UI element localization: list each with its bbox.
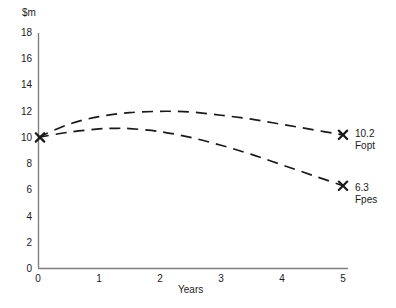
annotation-name-fopt: Fopt (355, 140, 375, 152)
marker-endpoint-fpes (339, 182, 347, 190)
x-axis-title: Years (178, 284, 203, 295)
x-tick-label-5: 5 (333, 273, 353, 284)
annotation-value-fopt: 10.2 (355, 128, 374, 140)
y-tick-label-4: 4 (10, 211, 32, 222)
y-tick-label-16: 16 (10, 53, 32, 64)
annotation-name-fpes: Fpes (355, 194, 377, 206)
y-tick-label-8: 8 (10, 158, 32, 169)
marker-origin-x (36, 133, 44, 141)
y-tick-label-18: 18 (10, 27, 32, 38)
x-tick-label-2: 2 (150, 273, 170, 284)
y-tick-label-10: 10 (10, 132, 32, 143)
y-tick-label-6: 6 (10, 184, 32, 195)
y-tick-label-14: 14 (10, 79, 32, 90)
series-line-fpes (38, 128, 343, 186)
series-line-fopt (38, 111, 343, 137)
x-tick-label-1: 1 (89, 273, 109, 284)
x-tick-label-3: 3 (211, 273, 231, 284)
y-tick-label-2: 2 (10, 237, 32, 248)
chart-container: $m 18 16 14 12 10 8 6 4 2 0 0 1 2 3 4 5 … (0, 0, 396, 308)
y-tick-label-12: 12 (10, 106, 32, 117)
annotation-value-fpes: 6.3 (355, 182, 369, 194)
x-tick-label-4: 4 (272, 273, 292, 284)
x-tick-label-0: 0 (28, 273, 48, 284)
y-axis-title: $m (22, 7, 36, 18)
chart-plot-area (0, 0, 396, 308)
